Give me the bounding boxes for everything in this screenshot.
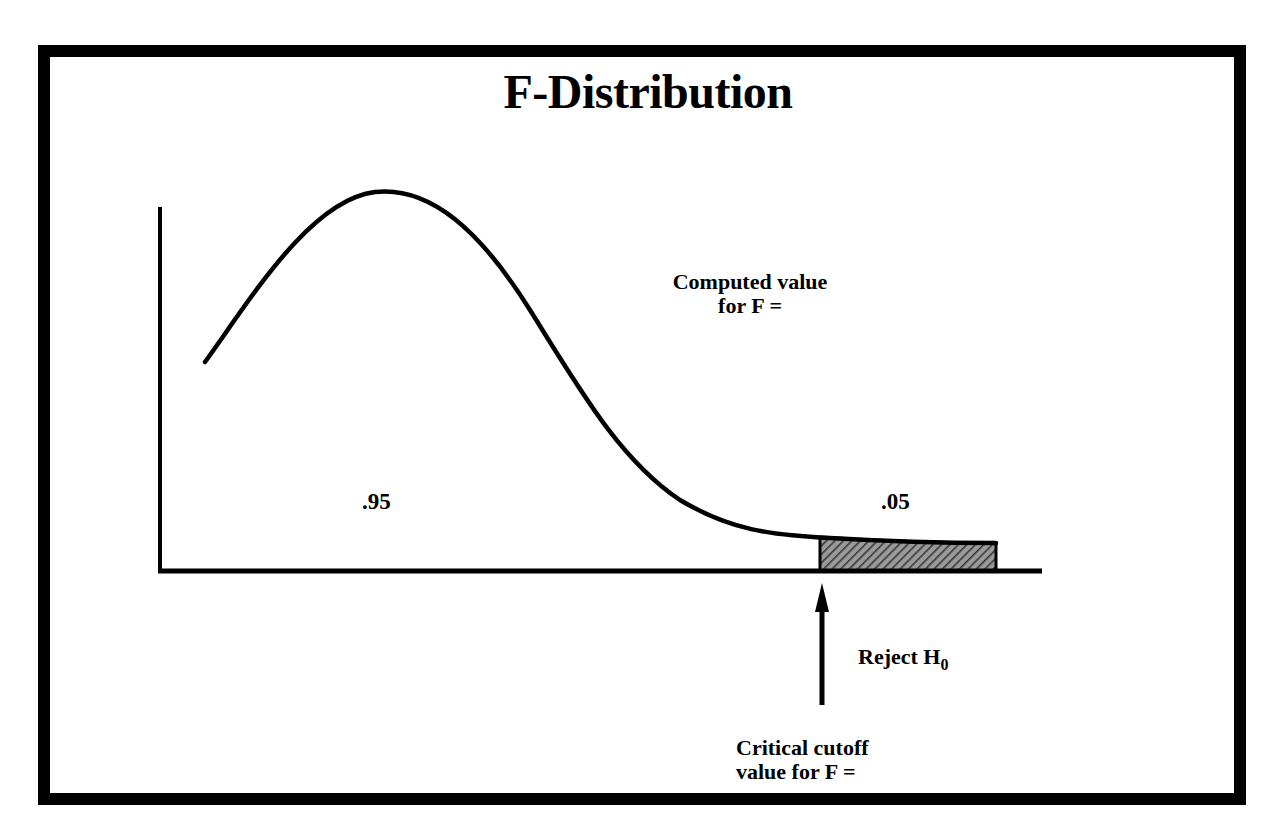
area-left-label: .95 — [362, 490, 391, 514]
computed-line-1: Computed value — [640, 270, 860, 294]
arrow-up-icon — [815, 583, 829, 705]
reject-text: Reject H — [858, 644, 940, 669]
area-right-label: .05 — [881, 490, 910, 514]
density-curve — [205, 191, 996, 543]
computed-line-2: for F = — [640, 294, 860, 318]
critical-line-1: Critical cutoff — [736, 736, 916, 760]
computed-value-label: Computed value for F = — [640, 270, 860, 318]
reject-subscript: 0 — [940, 656, 948, 673]
critical-cutoff-label: Critical cutoff value for F = — [736, 736, 916, 784]
reject-h0-label: Reject H0 — [858, 645, 948, 677]
f-distribution-plot — [0, 0, 1284, 831]
critical-line-2: value for F = — [736, 760, 916, 784]
